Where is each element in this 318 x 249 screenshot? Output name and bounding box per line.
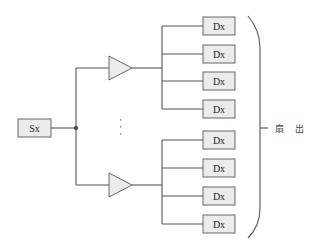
destination-node: Dx <box>162 100 235 118</box>
source-node: Sx <box>18 119 51 137</box>
lower-buffer-icon <box>109 173 132 197</box>
destination-label: Dx <box>213 49 225 60</box>
destination-label: Dx <box>213 163 225 174</box>
right-brace <box>248 16 260 238</box>
destination-node: Dx <box>162 45 235 63</box>
destination-node: Dx <box>162 131 235 149</box>
ellipsis-dots <box>120 119 121 135</box>
destination-node: Dx <box>162 17 235 35</box>
upper-buffer-icon <box>109 56 132 80</box>
destination-label: Dx <box>213 191 225 202</box>
destination-node: Dx <box>162 72 235 90</box>
destination-node: Dx <box>162 159 235 177</box>
destination-label: Dx <box>213 21 225 32</box>
fanout-diagram: Sx Dx Dx Dx Dx <box>0 0 318 249</box>
fanout-label: 扇 出 <box>275 123 308 134</box>
destination-label: Dx <box>213 76 225 87</box>
ellipsis-dot <box>120 126 121 128</box>
destination-node: Dx <box>162 215 235 233</box>
ellipsis-dot <box>120 119 121 121</box>
destination-group: Dx Dx Dx Dx Dx Dx Dx <box>162 17 235 233</box>
destination-label: Dx <box>213 104 225 115</box>
destination-node: Dx <box>162 187 235 205</box>
source-label: Sx <box>29 123 40 134</box>
ellipsis-dot <box>120 133 121 135</box>
destination-label: Dx <box>213 219 225 230</box>
destination-label: Dx <box>213 135 225 146</box>
